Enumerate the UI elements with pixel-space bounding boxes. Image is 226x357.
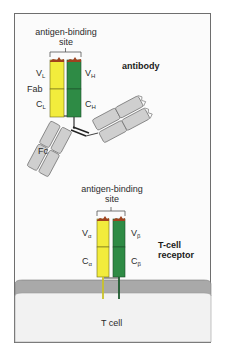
vb-label: Vβ [131, 228, 140, 241]
cb-label: Cβ [131, 256, 141, 269]
vl-label: VL [36, 68, 45, 81]
antibody-tcr-diagram [0, 0, 226, 357]
binding-site-line2: site [76, 194, 148, 204]
tcr-title-line2: receptor [158, 250, 194, 260]
t-cell-label: T cell [101, 318, 122, 328]
antibody-fc [27, 121, 72, 177]
vh-label: VH [85, 68, 95, 81]
antibody-fab-tilted [92, 94, 154, 143]
binding-site-line2: site [30, 37, 102, 47]
antibody-title: antibody [122, 61, 160, 71]
fc-label: Fc [38, 146, 48, 156]
antibody-fab-upright [50, 48, 81, 129]
tcr-binding-site-label: antigen-binding site [76, 184, 148, 204]
cl-label: CL [36, 99, 46, 112]
va-label: Vα [82, 228, 91, 241]
antibody-hinge [71, 127, 98, 136]
binding-site-line1: antigen-binding [30, 27, 102, 37]
ca-label: Cα [82, 256, 92, 269]
ch-label: CH [85, 99, 96, 112]
tcr-title: T-cell receptor [158, 240, 194, 260]
fab-label: Fab [27, 84, 43, 94]
binding-site-line1: antigen-binding [76, 184, 148, 194]
tcr-title-line1: T-cell [158, 240, 194, 250]
antibody-binding-site-label: antigen-binding site [30, 27, 102, 47]
t-cell-body [15, 280, 211, 342]
